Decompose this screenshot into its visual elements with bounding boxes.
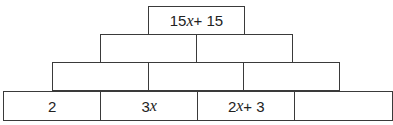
pyramid-cell-base: 3x <box>100 91 199 121</box>
pyramid-cell-empty <box>52 62 149 91</box>
pyramid-cell-empty <box>148 62 245 91</box>
pyramid-cell-top: 15x + 15 <box>148 6 245 35</box>
pyramid-cell-base: 2x + 3 <box>197 91 296 121</box>
pyramid-cell-empty <box>100 34 197 63</box>
pyramid-row-1: 15x + 15 <box>148 6 245 35</box>
pyramid-row-2 <box>100 34 293 63</box>
pyramid-cell-empty <box>243 62 340 91</box>
pyramid-cell-base: 2 <box>3 91 102 121</box>
pyramid-row-base: 2 3x 2x + 3 <box>3 91 393 121</box>
pyramid-cell-empty <box>294 91 393 121</box>
pyramid-cell-empty <box>196 34 293 63</box>
pyramid-row-3 <box>52 62 340 91</box>
